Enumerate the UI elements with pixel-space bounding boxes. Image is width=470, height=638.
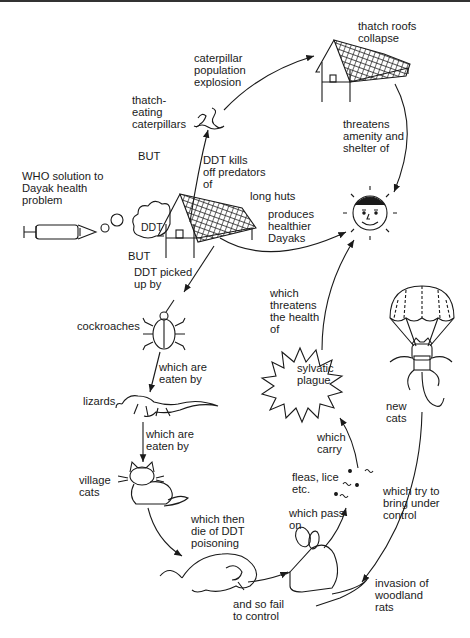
fail-to-control-label: and so fail to control	[233, 598, 284, 622]
cockroach-icon	[143, 300, 185, 350]
thatch-roofs-collapse-label: thatch roofs collapse	[358, 20, 416, 44]
long-hut-icon	[158, 194, 256, 258]
die-of-ddt-label: which then die of DDT poisoning	[191, 513, 245, 549]
lizard-icon	[116, 396, 218, 417]
eaten-by-cats-label: which are eaten by	[146, 428, 194, 452]
long-huts-label: long huts	[250, 190, 295, 202]
threatens-health-label: which threatens the health of	[270, 287, 319, 335]
threatens-shelter-label: threatens amenity and shelter of	[343, 118, 404, 154]
dead-cat-icon	[160, 554, 257, 592]
new-cats-label: new cats	[386, 400, 407, 424]
woodland-rats-label: invasion of woodland rats	[375, 577, 429, 613]
but-bottom-label: BUT	[128, 250, 150, 262]
which-pass-on-label: which pass on	[289, 507, 344, 531]
syringe-icon	[24, 225, 96, 239]
which-carry-label: which carry	[317, 431, 346, 455]
who-solution-label: WHO solution to Dayak health problem	[22, 170, 103, 206]
cockroaches-label: cockroaches	[77, 320, 140, 332]
fleas-icon	[335, 470, 373, 498]
eaten-by-lizards-label: which are eaten by	[159, 361, 207, 385]
lizards-label: lizards	[83, 395, 115, 407]
parachute-cat-icon	[390, 286, 454, 406]
cat-icon	[118, 462, 188, 506]
ddt-picked-up-label: DDT picked up by	[134, 266, 192, 290]
produces-healthier-label: produces healthier Dayaks	[268, 208, 314, 244]
bring-under-control-label: which try to bring under control	[383, 485, 440, 521]
thatch-eating-caterpillars-label: thatch- eating caterpillars	[132, 94, 186, 130]
caterpillar-icon	[194, 108, 224, 129]
ddt-consequence-diagram: WHO solution to Dayak health problem DDT…	[0, 0, 470, 638]
sylvatic-plague-label: sylvatic plague	[297, 362, 334, 386]
rat-icon	[286, 525, 368, 606]
ddt-label: DDT	[141, 221, 163, 233]
fleas-lice-label: fleas, lice etc.	[292, 471, 339, 495]
collapsed-hut-icon	[316, 40, 410, 102]
village-cats-label: village cats	[79, 474, 111, 498]
caterpillar-explosion-label: caterpillar population explosion	[194, 52, 246, 88]
ddt-kills-predators-label: DDT kills off predators of	[203, 154, 266, 190]
smiling-face-icon	[343, 186, 397, 240]
but-top-label: BUT	[138, 150, 160, 162]
